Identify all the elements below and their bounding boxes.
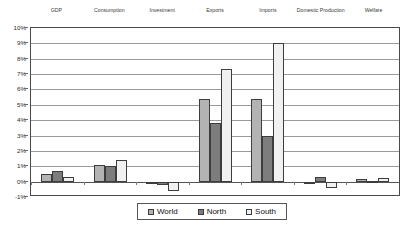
bar <box>94 165 105 182</box>
y-axis-tick <box>24 88 28 89</box>
bar <box>105 166 116 181</box>
bar <box>356 179 367 181</box>
bar <box>273 43 284 181</box>
legend-item[interactable]: South <box>246 207 276 216</box>
legend-label: North <box>207 207 227 216</box>
bar <box>304 182 315 184</box>
legend-item[interactable]: World <box>148 207 178 216</box>
bars-container <box>241 28 294 195</box>
bar <box>41 174 52 182</box>
bar <box>326 182 337 188</box>
category-labels-top: GDPConsumptionInvestmentExportsImportsDo… <box>30 5 400 21</box>
legend-label: World <box>157 207 178 216</box>
plot-area <box>30 27 400 196</box>
category-label: Welfare <box>347 5 400 21</box>
x-axis-tick <box>189 182 190 185</box>
bar-group <box>136 28 189 195</box>
bars-container <box>31 28 84 195</box>
y-axis-tick <box>24 73 28 74</box>
x-axis-tick <box>294 182 295 185</box>
bar <box>63 177 74 182</box>
legend-swatch-icon <box>148 209 154 215</box>
bar-group <box>31 28 84 195</box>
bar-groups <box>31 28 399 195</box>
x-axis-tick <box>31 182 32 185</box>
bar <box>168 182 179 191</box>
bar <box>52 171 63 182</box>
y-axis-tick <box>24 27 28 28</box>
bars-container <box>136 28 189 195</box>
bar <box>262 136 273 182</box>
category-label: Domestic Production <box>294 5 347 21</box>
y-axis: 10%9%8%7%6%5%4%3%2%1%0%-1% <box>0 22 28 202</box>
legend-swatch-icon <box>198 209 204 215</box>
x-axis-tick <box>84 182 85 185</box>
y-axis-tick <box>24 181 28 182</box>
bar <box>315 177 326 182</box>
bar-group <box>346 28 399 195</box>
bars-container <box>189 28 242 195</box>
y-axis-tick <box>24 150 28 151</box>
y-axis-tick <box>24 165 28 166</box>
bars-container <box>346 28 399 195</box>
bar-group <box>84 28 137 195</box>
x-axis-tick <box>241 182 242 185</box>
legend-swatch-icon <box>246 209 252 215</box>
bar-group <box>241 28 294 195</box>
category-label: Imports <box>241 5 294 21</box>
category-label: Exports <box>189 5 242 21</box>
y-axis-tick <box>24 42 28 43</box>
y-axis-tick <box>24 58 28 59</box>
x-axis-tick <box>346 182 347 185</box>
bar <box>157 182 168 185</box>
bar-group <box>189 28 242 195</box>
bars-container <box>84 28 137 195</box>
bar <box>199 99 210 182</box>
category-label: GDP <box>30 5 83 21</box>
bar-group <box>294 28 347 195</box>
bars-container <box>294 28 347 195</box>
category-label: Investment <box>136 5 189 21</box>
category-label: Consumption <box>83 5 136 21</box>
y-axis-tick <box>24 196 28 197</box>
bar <box>221 69 232 181</box>
legend-label: South <box>255 207 276 216</box>
bar-chart: GDPConsumptionInvestmentExportsImportsDo… <box>0 0 414 231</box>
bar <box>367 181 378 183</box>
y-axis-tick <box>24 104 28 105</box>
bar <box>378 178 389 182</box>
bar <box>251 99 262 182</box>
bar <box>146 182 157 184</box>
chart-legend: WorldNorthSouth <box>137 203 287 220</box>
bar <box>210 123 221 181</box>
bar <box>116 160 127 182</box>
x-axis-tick <box>136 182 137 185</box>
y-axis-tick <box>24 119 28 120</box>
y-axis-tick <box>24 135 28 136</box>
legend-item[interactable]: North <box>198 207 227 216</box>
